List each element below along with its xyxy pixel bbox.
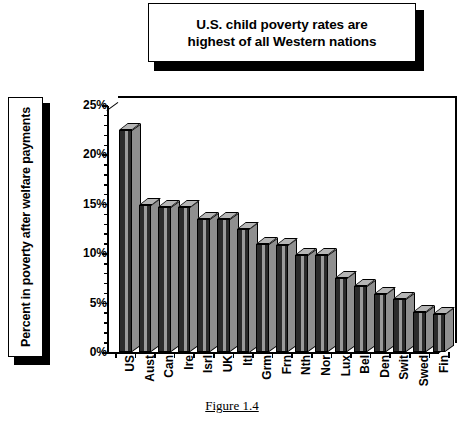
chart-title: U.S. child poverty rates are highest of …	[188, 16, 377, 50]
bar	[178, 207, 191, 352]
bar-front-face	[119, 130, 132, 352]
y-axis-tick-label: 5%	[65, 296, 107, 310]
bar-front-face	[374, 294, 387, 352]
bar	[413, 312, 426, 352]
x-axis-tick-label: Bel	[358, 355, 372, 374]
bar	[139, 205, 152, 352]
bar-front-face	[335, 278, 348, 352]
bar-series	[107, 100, 460, 370]
bar-front-face	[139, 205, 152, 352]
bar	[393, 299, 406, 352]
bar-front-face	[276, 245, 289, 352]
x-axis-tick-label: Aust	[143, 355, 157, 382]
x-axis-tick-label: UK	[221, 355, 235, 372]
bar	[295, 255, 308, 352]
bar	[335, 278, 348, 352]
bar	[433, 314, 446, 352]
bar	[217, 219, 230, 352]
bar	[354, 286, 367, 352]
x-axis-tick-label: Swit	[397, 355, 411, 380]
x-axis-tick-label: US	[123, 355, 137, 372]
bar-front-face	[433, 314, 446, 352]
y-axis-tick-label: 20%	[65, 147, 107, 161]
bar	[315, 255, 328, 352]
bar	[119, 130, 132, 352]
bar-front-face	[256, 244, 269, 352]
bar-front-face	[393, 299, 406, 352]
x-axis-tick-label: Swed	[417, 355, 431, 386]
x-axis-tick-label: Frn	[280, 355, 294, 374]
figure-caption: Figure 1.4	[0, 398, 464, 414]
bar	[256, 244, 269, 352]
y-axis-tick-label: 0%	[65, 345, 107, 359]
figure-caption-text: Figure 1.4	[205, 398, 258, 413]
x-axis-tick-label: Can	[162, 355, 176, 378]
x-axis-tick-label: Ire	[182, 355, 196, 370]
bar-side-face	[445, 308, 454, 352]
bar	[276, 245, 289, 352]
y-axis-label: Percent in poverty after welfare payment…	[19, 107, 33, 347]
bar-front-face	[413, 312, 426, 352]
y-axis-tick-labels: 0%5%10%15%20%25%	[60, 100, 107, 370]
bar	[237, 229, 250, 353]
bar	[374, 294, 387, 352]
bar-front-face	[354, 286, 367, 352]
x-axis-tick-label: Itl	[241, 355, 255, 366]
bar	[158, 207, 171, 352]
chart-title-box: U.S. child poverty rates are highest of …	[148, 3, 416, 62]
x-axis-tick-label: Den	[378, 355, 392, 378]
y-axis-tick-label: 10%	[65, 246, 107, 260]
bar-front-face	[237, 229, 250, 353]
x-axis-tick-label: Lux	[339, 355, 353, 376]
x-axis-tick-label: Nor	[319, 355, 333, 376]
bar-front-face	[295, 255, 308, 352]
chart-title-line-1: U.S. child poverty rates are	[196, 17, 367, 32]
x-axis-tick-label: Nth	[299, 355, 313, 375]
y-axis-tick-label: 25%	[65, 98, 107, 112]
y-axis-label-box: Percent in poverty after welfare payment…	[8, 97, 43, 357]
chart-plot-area: 0%5%10%15%20%25%	[60, 100, 460, 370]
x-axis-tick-label: Fin	[437, 355, 451, 373]
bar	[197, 219, 210, 352]
bar-front-face	[178, 207, 191, 352]
bar-front-face	[158, 207, 171, 352]
chart-title-line-2: highest of all Western nations	[188, 34, 377, 49]
bar-front-face	[217, 219, 230, 352]
bar-front-face	[315, 255, 328, 352]
y-axis-tick-label: 15%	[65, 197, 107, 211]
bar-front-face	[197, 219, 210, 352]
x-axis-tick-label: Grm	[260, 355, 274, 380]
x-axis-tick-label: Isrl	[201, 355, 215, 373]
plot-back-top-edge	[118, 96, 456, 98]
